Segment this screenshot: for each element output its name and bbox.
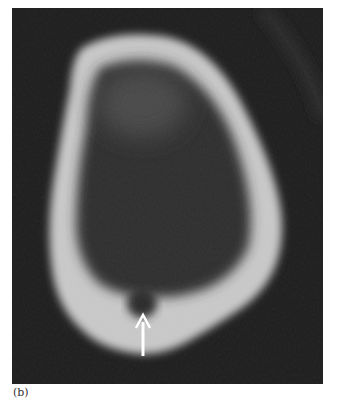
ct-scan-image: [12, 8, 323, 384]
panel-label: (b): [13, 386, 29, 399]
ct-image-panel: [12, 8, 323, 384]
